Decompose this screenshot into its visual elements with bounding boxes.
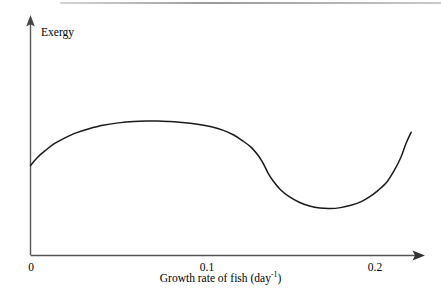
exergy-curve (31, 121, 412, 209)
y-axis-label: Exergy (41, 27, 74, 39)
x-axis-label-prefix: Growth rate of fish (day (160, 272, 271, 284)
exergy-growth-rate-figure: Exergy 0 0.1 0.2 Growth rate of fish (da… (0, 0, 441, 301)
x-tick-label-0: 0 (28, 262, 34, 274)
x-tick-label-0-2: 0.2 (368, 262, 382, 274)
chart-plot-area (0, 0, 441, 301)
x-axis-label: Growth rate of fish (day-1) (160, 273, 282, 285)
x-axis-label-suffix: ) (277, 272, 281, 284)
